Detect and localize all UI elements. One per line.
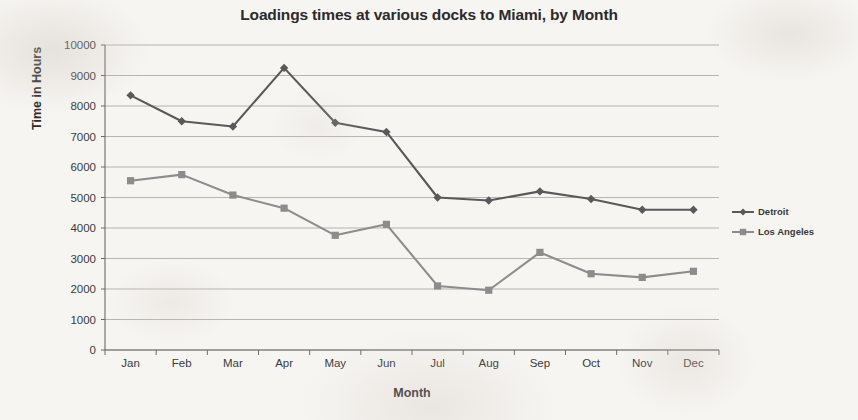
data-point-marker	[739, 208, 746, 215]
data-point-marker	[229, 191, 236, 198]
x-tick-label: Oct	[582, 357, 601, 369]
x-tick-label: Jun	[377, 357, 396, 369]
gridlines-group	[101, 45, 719, 350]
y-tick-label: 2000	[70, 283, 96, 295]
data-point-marker	[587, 270, 594, 277]
x-tick-label: Feb	[172, 357, 192, 369]
legend-label: Los Angeles	[758, 226, 814, 237]
data-point-marker	[536, 187, 544, 195]
series-line	[131, 175, 694, 291]
y-tick-label: 1000	[70, 314, 96, 326]
data-point-marker	[126, 91, 134, 99]
data-point-marker	[689, 206, 697, 214]
data-point-marker	[587, 195, 595, 203]
x-tick-label: Dec	[683, 357, 704, 369]
x-tick-label: May	[324, 357, 346, 369]
data-point-marker	[434, 282, 441, 289]
legend-item-detroit[interactable]: Detroit	[732, 206, 789, 217]
data-point-marker	[485, 287, 492, 294]
y-tick-label: 5000	[70, 192, 96, 204]
y-tick-label: 6000	[70, 161, 96, 173]
x-tick-label: Nov	[632, 357, 653, 369]
data-point-marker	[536, 249, 543, 256]
series-detroit	[126, 64, 697, 214]
data-point-marker	[638, 206, 646, 214]
y-tick-label: 7000	[70, 131, 96, 143]
data-point-marker	[127, 177, 134, 184]
data-series-group	[126, 64, 697, 294]
data-point-marker	[639, 274, 646, 281]
y-tick-label: 10000	[64, 39, 96, 51]
data-point-marker	[332, 232, 339, 239]
y-tick-label: 4000	[70, 222, 96, 234]
x-tick-label: Jan	[121, 357, 140, 369]
y-tick-label: 0	[90, 344, 96, 356]
y-tick-label: 9000	[70, 70, 96, 82]
x-axis-tick-labels: JanFebMarAprMayJunJulAugSepOctNovDec	[105, 350, 719, 369]
data-point-marker	[280, 205, 287, 212]
x-tick-label: Sep	[530, 357, 550, 369]
legend-label: Detroit	[758, 206, 789, 217]
data-point-marker	[690, 268, 697, 275]
y-tick-label: 3000	[70, 253, 96, 265]
y-axis-tick-labels: 1000090008000700060005000400030002000100…	[64, 39, 96, 356]
chart-legend: DetroitLos Angeles	[732, 206, 814, 237]
x-tick-label: Aug	[479, 357, 499, 369]
data-point-marker	[178, 171, 185, 178]
data-point-marker	[383, 221, 390, 228]
data-point-marker	[178, 117, 186, 125]
data-point-marker	[740, 229, 746, 235]
series-los-angeles	[127, 171, 697, 294]
legend-item-los-angeles[interactable]: Los Angeles	[732, 226, 814, 237]
chart-container: Loadings times at various docks to Miami…	[0, 0, 858, 420]
x-tick-label: Mar	[223, 357, 243, 369]
plot-area: 1000090008000700060005000400030002000100…	[0, 0, 858, 420]
x-tick-label: Apr	[275, 357, 293, 369]
x-tick-label: Jul	[430, 357, 445, 369]
y-tick-label: 8000	[70, 100, 96, 112]
